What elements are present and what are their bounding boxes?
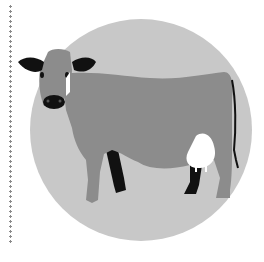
- cow-nostril: [59, 100, 62, 103]
- cow-left-eye: [40, 72, 44, 78]
- cow-left-ear: [18, 58, 44, 72]
- cow-nostril: [47, 100, 50, 103]
- cow-muzzle: [43, 95, 65, 109]
- cow-teat: [195, 166, 197, 172]
- cow-teat: [205, 166, 207, 172]
- cow-illustration: [0, 0, 264, 262]
